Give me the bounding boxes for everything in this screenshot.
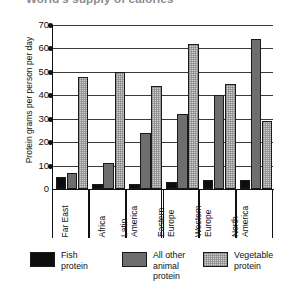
category-label: NorthAmerica (231, 206, 250, 237)
plot-area: 010203040506070 (52, 25, 273, 189)
legend-swatch-fish (30, 252, 55, 267)
y-tick-label-0: 0 (27, 183, 49, 194)
bar-fish (92, 184, 103, 189)
bar-animal (140, 133, 151, 189)
category-label: Africa (98, 215, 108, 237)
category-axis-cell: NorthAmerica (236, 190, 273, 238)
bar-animal (177, 114, 188, 189)
y-tick-label-40: 40 (27, 89, 49, 100)
category-axis-cell: Far East (52, 190, 89, 238)
bar-group (89, 25, 126, 189)
legend-swatch-animal (122, 252, 147, 267)
bar-animal (214, 95, 225, 189)
legend-label: Vegetableprotein (234, 250, 273, 271)
category-label: EasternEurope (157, 208, 176, 237)
bar-veg (188, 44, 199, 189)
protein-supply-bar-chart: World's supply of calories Protein grams… (0, 0, 286, 293)
legend-label: All otheranimalprotein (153, 250, 185, 282)
bar-veg (262, 121, 273, 189)
bar-animal (67, 173, 78, 189)
y-tick-label-10: 10 (27, 159, 49, 170)
bar-animal (251, 39, 262, 189)
bar-group (199, 25, 236, 189)
bar-veg (225, 84, 236, 189)
y-tick-label-20: 20 (27, 136, 49, 147)
category-label: LatinAmerica (120, 206, 139, 237)
chart-title: World's supply of calories (26, 0, 174, 5)
bar-group (126, 25, 163, 189)
bar-group (163, 25, 200, 189)
bar-fish (203, 180, 214, 189)
category-label: WesternEurope (194, 206, 213, 238)
legend-swatch-veg (203, 252, 228, 267)
bar-veg (115, 72, 126, 189)
bar-animal (103, 163, 114, 189)
y-tick-label-50: 50 (27, 65, 49, 76)
y-tick-label-30: 30 (27, 112, 49, 123)
bar-veg (151, 86, 162, 189)
y-tick-label-70: 70 (27, 19, 49, 30)
bar-veg (78, 77, 89, 189)
y-tick-label-60: 60 (27, 42, 49, 53)
chart-legend: FishproteinAll otheranimalproteinVegetab… (30, 251, 280, 293)
category-label: Far East (61, 205, 71, 237)
bar-fish (166, 182, 177, 189)
bar-group (236, 25, 273, 189)
legend-label: Fishprotein (61, 250, 88, 271)
bar-fish (240, 180, 251, 189)
bar-fish (56, 177, 67, 189)
bar-group (52, 25, 89, 189)
bar-fish (129, 184, 140, 189)
